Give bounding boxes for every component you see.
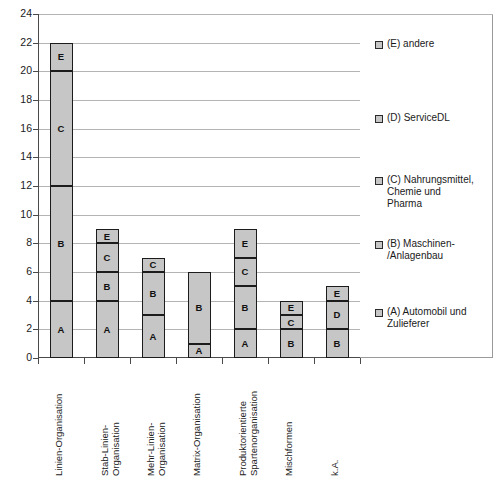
x-tick-mark [84,358,85,364]
legend-label: (A) Automobil undZulieferer [387,306,467,330]
legend-item[interactable]: (E) andere [375,38,493,50]
legend-label: (E) andere [387,38,434,50]
bar-segment-a[interactable]: A [234,329,257,358]
x-axis-label-holder: Mischformen [283,364,299,476]
bar-segment-b[interactable]: B [280,329,303,358]
x-axis-label-line: Mehr-Linien- [145,364,156,476]
chart-legend: (E) andere(D) ServiceDL(C) Nahrungsmitte… [375,14,493,358]
y-tick-label-0: 0 [2,351,32,363]
x-axis-label-line: Organisation [110,364,121,476]
bar-group[interactable]: BDE [326,14,349,358]
bar-group[interactable]: ABCE [50,14,73,358]
bar-group[interactable]: AB [188,14,211,358]
bar-segment-e[interactable]: E [326,286,349,300]
x-axis-label-holder: Matrix-Organisation [191,364,207,476]
legend-label: (B) Maschinen-/Anlagenbau [387,238,455,262]
y-tick-label-2: 2 [2,322,32,334]
bar-segment-b[interactable]: B [50,186,73,301]
bar-segment-d[interactable]: D [326,301,349,330]
y-tick-label-20: 20 [2,64,32,76]
y-tick-label-18: 18 [2,93,32,105]
legend-item[interactable]: (D) ServiceDL [375,112,493,124]
x-axis-label: Stab-Linien-Organisation [99,364,121,476]
bar-segment-e[interactable]: E [280,301,303,315]
bar-segment-a[interactable]: A [96,301,119,358]
bar-segment-a[interactable]: A [50,301,73,358]
legend-label: (D) ServiceDL [387,112,450,124]
chart-title [0,0,380,3]
bar-segment-a[interactable]: A [188,344,211,358]
x-tick-mark [360,358,361,364]
x-axis-label-line: Spartenorganisation [248,364,259,476]
legend-swatch-a-icon [375,309,383,317]
y-tick-label-8: 8 [2,236,32,248]
y-tick-label-12: 12 [2,179,32,191]
bar-segment-c[interactable]: C [142,258,165,272]
legend-swatch-c-icon [375,177,383,185]
x-axis-label-line: Organisation [156,364,167,476]
x-axis-label: Linien-Organisation [53,364,64,476]
bar-group[interactable]: ABC [142,14,165,358]
y-tick-label-22: 22 [2,36,32,48]
legend-item[interactable]: (A) Automobil undZulieferer [375,306,493,330]
bar-segment-b[interactable]: B [188,272,211,344]
y-tick-label-6: 6 [2,265,32,277]
bar-segment-e[interactable]: E [234,229,257,258]
x-axis-label-line: Mischformen [283,364,294,476]
legend-swatch-d-icon [375,115,383,123]
x-axis-label-holder: k.A. [329,364,345,476]
bar-segment-c[interactable]: C [96,243,119,272]
bar-segment-c[interactable]: C [280,315,303,329]
bar-segment-b[interactable]: B [326,329,349,358]
bar-segment-c[interactable]: C [50,71,73,186]
x-axis-label-line: Produktorientierte [237,364,248,476]
bar-segment-b[interactable]: B [142,272,165,315]
x-axis-label-holder: Stab-Linien-Organisation [99,364,115,476]
bar-group[interactable]: ABCE [234,14,257,358]
x-axis-label-line: Linien-Organisation [53,364,64,476]
bar-segment-b[interactable]: B [234,286,257,329]
bar-segment-e[interactable]: E [50,43,73,72]
bar-segment-b[interactable]: B [96,272,119,301]
y-tick-label-24: 24 [2,7,32,19]
x-tick-mark [222,358,223,364]
legend-label: (C) Nahrungsmittel,Chemie undPharma [387,174,474,210]
x-tick-mark [176,358,177,364]
stacked-bar-chart: 024681012141618202224 ABCEABCEABCABABCEB… [0,0,496,478]
bar-group[interactable]: ABCE [96,14,119,358]
x-axis-label-holder: Mehr-Linien-Organisation [145,364,161,476]
bar-segment-a[interactable]: A [142,315,165,358]
x-axis-label: Mischformen [283,364,294,476]
x-tick-mark [314,358,315,364]
bar-segment-e[interactable]: E [96,229,119,243]
x-tick-mark [38,358,39,364]
legend-item[interactable]: (B) Maschinen-/Anlagenbau [375,238,493,262]
x-axis-label: Matrix-Organisation [191,364,202,476]
y-tick-label-4: 4 [2,294,32,306]
legend-swatch-b-icon [375,241,383,249]
y-tick-label-10: 10 [2,208,32,220]
x-axis-label-holder: Linien-Organisation [53,364,69,476]
y-tick-label-14: 14 [2,150,32,162]
y-tick-label-16: 16 [2,122,32,134]
x-axis-label-line: k.A. [329,364,340,476]
x-axis-label: k.A. [329,364,340,476]
x-axis-label: Mehr-Linien-Organisation [145,364,167,476]
x-tick-mark [268,358,269,364]
x-axis-label: ProduktorientierteSpartenorganisation [237,364,259,476]
bar-group[interactable]: BCE [280,14,303,358]
x-tick-mark [130,358,131,364]
x-axis-label-line: Stab-Linien- [99,364,110,476]
x-axis-label-holder: ProduktorientierteSpartenorganisation [237,364,253,476]
bar-segment-c[interactable]: C [234,258,257,287]
legend-swatch-e-icon [375,41,383,49]
legend-item[interactable]: (C) Nahrungsmittel,Chemie undPharma [375,174,493,210]
x-axis-label-line: Matrix-Organisation [191,364,202,476]
